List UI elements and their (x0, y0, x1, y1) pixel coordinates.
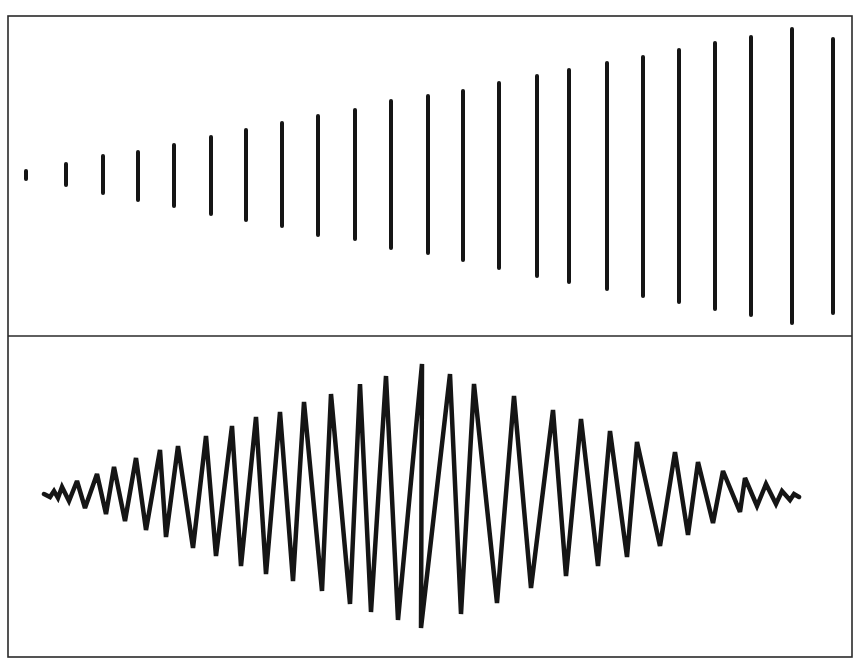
top-panel-bars (26, 29, 833, 323)
zigzag-wave (44, 364, 799, 628)
bottom-panel-wave (44, 364, 799, 628)
figure-canvas (0, 0, 863, 664)
